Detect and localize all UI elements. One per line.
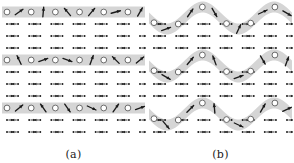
lattice-arrow-head [248,47,250,50]
lattice-site-dot [39,119,41,121]
lattice-site-dot [208,35,210,37]
lattice-site-dot [6,119,8,121]
lattice-arrow-head [159,35,161,38]
lattice-site-dot [175,83,177,85]
lattice-spin [203,119,210,122]
lattice-site-dot [286,35,288,37]
lattice-arrow-head [144,35,146,38]
lattice-arrow-head [101,119,103,122]
lattice-site-dot [17,47,19,49]
lattice-spin [73,35,80,38]
band-site-circle [224,69,230,75]
lattice-arrow-head [203,71,205,74]
lattice-arrow-head [56,131,58,134]
lattice-spin [286,47,293,50]
lattice-spin [203,71,210,74]
lattice-site-dot [264,71,266,73]
lattice-arrow-head [144,131,146,134]
lattice-site-dot [73,35,75,37]
lattice-arrow-head [270,95,272,98]
lattice-site-dot [139,83,141,85]
lattice-spin [123,47,130,50]
lattice-spin [123,95,130,98]
lattice-spin [34,83,41,86]
lattice-site-dot [61,23,63,25]
lattice-site-dot [61,83,63,85]
lattice-site-dot [28,95,30,97]
lattice-spin [34,119,41,122]
lattice-spin [248,95,255,98]
lattice-arrow-head [226,47,228,50]
lattice-spin [153,131,160,134]
lattice-spin [226,47,233,50]
lattice-arrow-head [291,131,293,134]
lattice-spin [95,119,102,122]
lattice-spin [181,35,188,38]
lattice-spin [159,35,166,38]
band-site-circle [248,116,254,122]
lattice-arrow-head [12,71,14,74]
highlight-band-wave [149,50,292,83]
lattice-site-dot [220,23,222,25]
lattice-site-dot [264,131,266,133]
lattice-arrow-head [144,23,146,26]
lattice-site-dot [139,47,141,49]
lattice-spin [50,71,57,74]
lattice-site-dot [95,119,97,121]
panel-b-caption: (b) [147,148,294,161]
lattice-site-dot [17,131,19,133]
lattice-site-dot [6,95,8,97]
lattice-site-dot [61,47,63,49]
lattice-site-dot [220,131,222,133]
lattice-spin [286,35,293,38]
lattice-arrow-head [270,23,272,26]
lattice-site-dot [39,23,41,25]
lattice-spin [79,119,86,122]
lattice-spin [50,83,57,86]
lattice-spin [197,95,204,98]
highlight-band-wave [149,98,292,131]
lattice-spin [12,95,19,98]
lattice-arrow-head [79,131,81,134]
lattice-site-dot [164,95,166,97]
lattice-spin [95,71,102,74]
lattice-spin [95,95,102,98]
lattice-site-dot [186,23,188,25]
lattice-spin [197,131,204,134]
lattice-arrow-head [203,47,205,50]
lattice-spin [117,71,124,74]
panel-a-diagram [0,0,147,140]
lattice-site-dot [286,119,288,121]
lattice-site-dot [95,35,97,37]
lattice-site-dot [164,35,166,37]
band-site-circle [28,57,34,63]
lattice-spin [203,35,210,38]
lattice-site-dot [84,47,86,49]
lattice-spin [123,35,130,38]
lattice-site-dot [231,35,233,37]
lattice-site-dot [84,95,86,97]
lattice-site-dot [153,83,155,85]
lattice-site-dot [220,35,222,37]
lattice-arrow-head [56,23,58,26]
lattice-arrow-head [181,83,183,86]
lattice-arrow-head [101,131,103,134]
lattice-arrow-head [56,35,58,38]
lattice-spin [139,119,146,122]
lattice-site-dot [197,83,199,85]
lattice-site-dot [28,119,30,121]
band-site-circle [77,9,83,15]
lattice-spin [159,131,166,134]
lattice-site-dot [84,23,86,25]
lattice-site-dot [128,119,130,121]
lattice-spin [270,83,277,86]
lattice-spin [226,35,233,38]
lattice-spin [34,35,41,38]
lattice-site-dot [264,83,266,85]
lattice-arrow-head [123,35,125,38]
lattice-spin [220,95,227,98]
lattice-spin [220,47,227,50]
lattice-site-dot [231,131,233,133]
lattice-spin [286,131,293,134]
lattice-site-dot [50,35,52,37]
